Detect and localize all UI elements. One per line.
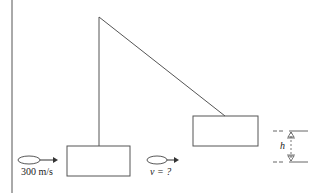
outgoing-bullet-icon [147,156,179,164]
diagram-canvas [0,0,329,193]
outgoing-speed-label: v = ? [150,166,171,177]
swung-string [99,17,225,116]
height-arrows-icon [273,131,308,162]
incoming-bullet-icon [18,156,58,164]
height-label: h [280,140,285,151]
incoming-speed-label: 300 m/s [21,166,53,177]
hanging-block [67,146,130,176]
raised-block [193,116,258,146]
